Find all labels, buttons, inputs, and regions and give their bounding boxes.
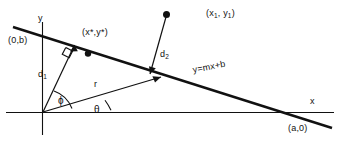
segment-d2-label-sub: 2 (165, 53, 169, 60)
x-intercept-label: (a,0) (288, 124, 308, 133)
foot-point-label: (x*,y*) (82, 28, 108, 37)
external-point-label-prefix: (x (206, 8, 214, 18)
x-axis-label: x (310, 97, 315, 106)
y-intercept-label: (0,b) (8, 36, 28, 45)
segment-d1-label-sub: 1 (43, 73, 47, 80)
external-point-label-suffix: ) (232, 8, 235, 18)
angle-arc-theta (105, 100, 111, 110)
segment-r-label: r (94, 80, 97, 89)
y-axis-label: y (38, 14, 43, 23)
segment-d1-label: d1 (38, 70, 47, 80)
angle-theta-label: θ (94, 105, 100, 115)
external-point-label: (x1, y1) (206, 9, 235, 19)
foot-point-dot (85, 50, 91, 56)
segment-d2-label: d2 (160, 50, 169, 60)
angle-phi-label: ϕ (58, 96, 64, 106)
figure-canvas: y x (0,b) (a,0) (x*,y*) (x1, y1) d1 d2 r… (0, 0, 340, 141)
line-geometry-diagram (0, 0, 340, 141)
segment-d2 (150, 17, 166, 74)
external-point-label-mid: , y (218, 8, 228, 18)
external-point-dot (163, 11, 170, 18)
